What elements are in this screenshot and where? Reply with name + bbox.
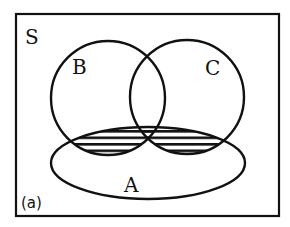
figure-caption: (a) <box>21 194 42 212</box>
venn-diagram: S B C A (a) <box>0 0 290 227</box>
universe-label: S <box>25 25 39 49</box>
set-a-label: A <box>123 173 139 197</box>
set-c-label: C <box>205 56 220 80</box>
universe-box <box>16 14 279 216</box>
set-b-label: B <box>72 55 87 79</box>
